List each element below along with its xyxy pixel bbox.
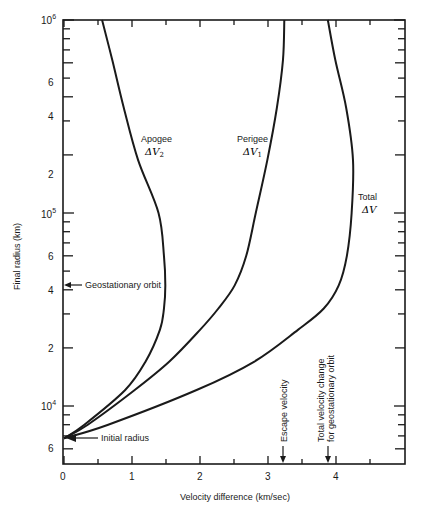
apogee-label-dv: ΔV2 [144,146,164,159]
geostationary-annotation: Geostationary orbit [64,280,162,290]
total-label-dv: ΔV [361,204,378,215]
total-change-label-1: Total velocity change [316,358,326,442]
plot-frame [63,20,405,464]
arrow-down-icon [325,456,331,463]
initial-radius-label: Initial radius [101,433,150,443]
perigee-dv1-curve [64,20,284,438]
y-axis-title: Final radius (km) [12,223,22,290]
total-change-label-2: for geostationary orbit [326,354,336,442]
x-tick-labels: 0 1 2 3 4 [60,471,339,482]
geo-label: Geostationary orbit [85,280,162,290]
perigee-label: Perigee ΔV1 [237,134,268,159]
escape-velocity-annotation: Escape velocity [279,379,289,463]
curves [64,20,353,438]
y-tick-4e5: 4 [48,111,54,122]
x-axis-title: Velocity difference (km/sec) [180,492,290,502]
y-tick-labels: 106 6 4 2 105 6 4 2 104 6 [41,13,56,454]
y-tick-1e6: 106 [41,13,56,26]
escape-velocity-label: Escape velocity [279,379,289,442]
x-tick-2: 2 [197,471,203,482]
arrow-down-icon [280,456,286,463]
x-tick-1: 1 [129,471,135,482]
x-tick-0: 0 [60,471,66,482]
apogee-label: Apogee ΔV2 [141,134,172,159]
y-tick-6e4: 6 [48,251,54,262]
apogee-dv2-curve [64,20,165,438]
apogee-label-text: Apogee [141,134,172,144]
axis-ticks [63,20,405,464]
y-tick-2e5: 2 [48,169,54,180]
x-tick-3: 3 [265,471,271,482]
perigee-label-dv: ΔV1 [242,146,262,159]
y-tick-1e5: 105 [41,207,56,220]
x-tick-4: 4 [333,471,339,482]
total-dv-curve [64,20,353,438]
perigee-label-text: Perigee [237,134,268,144]
total-label-text: Total [358,192,377,202]
arrow-left-icon [64,282,71,288]
y-tick-2e4: 2 [48,343,54,354]
y-tick-1e4: 104 [41,399,56,412]
y-tick-4e4: 4 [48,285,54,296]
total-label: Total ΔV [358,192,378,215]
y-tick-6e3: 6 [48,443,54,454]
y-tick-6e5: 6 [48,77,54,88]
hohmann-transfer-chart: 106 6 4 2 105 6 4 2 104 6 0 1 2 3 4 Velo… [0,0,424,515]
total-velocity-change-annotation: Total velocity change for geostationary … [316,354,336,463]
